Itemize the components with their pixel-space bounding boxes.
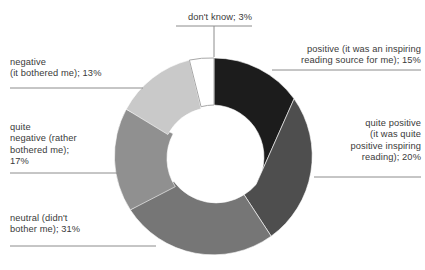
chart-page: don't know; 3% positive (it was an inspi…	[0, 0, 425, 270]
slice-label-quite-positive: quite positive (it was quite positive in…	[300, 118, 421, 164]
slice-label-neutral: neutral (didn't bother me); 31%	[10, 213, 155, 236]
slice-label-negative: negative (it bothered me); 13%	[10, 57, 150, 80]
slice-label-quite-negative: quite negative (rather bothered me); 17%	[10, 122, 126, 168]
slice-label-dont-know: don't know; 3%	[165, 12, 275, 23]
slice-label-positive: positive (it was an inspiring reading so…	[268, 44, 421, 67]
